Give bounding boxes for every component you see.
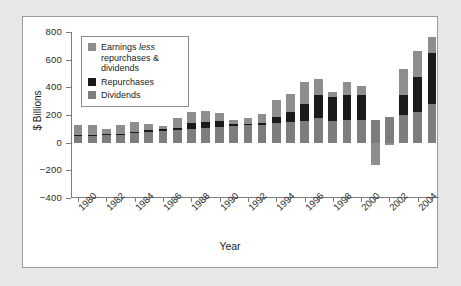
bar-segment [88,136,97,143]
bar-segment [343,82,352,95]
bar-segment [159,126,168,129]
plot-area: 8006004002000−200−400 $ Billions 1980198… [23,17,437,267]
bar-group [371,17,380,267]
bar-segment [159,129,168,131]
bar-segment [215,113,224,122]
bar-segment [102,129,111,134]
chart-legend: Earnings less repurchases & dividendsRep… [81,36,189,107]
bar-segment [258,125,267,143]
bar-group [428,17,437,267]
bar-segment [399,69,408,95]
bar-group [385,17,394,267]
bar-segment [314,118,323,142]
y-tick-mark [66,60,71,61]
bar-segment [314,95,323,119]
bar-group [343,17,352,267]
bar-segment [328,121,337,143]
bar-group [286,17,295,267]
legend-swatch-icon [88,78,96,86]
bar-group [314,17,323,267]
y-tick-mark [66,143,71,144]
bar-segment [116,135,125,143]
bar-segment [300,104,309,121]
bar-segment [399,95,408,115]
y-tick-mark [66,198,71,199]
bar-segment [413,51,422,77]
bar-segment [244,125,253,143]
bar-segment [102,135,111,143]
bar-segment [328,97,337,121]
bar-segment [399,115,408,142]
bar-segment [173,128,182,130]
bar-segment [258,123,267,125]
bar-segment [201,128,210,143]
bar-segment [74,136,83,143]
bar-group [201,17,210,267]
y-tick-mark [66,115,71,116]
bar-segment [144,132,153,143]
bar-segment [413,112,422,143]
bar-segment [258,114,267,124]
bar-segment [201,111,210,122]
bar-group [357,17,366,267]
y-tick-mark [66,87,71,88]
bar-segment [74,125,83,136]
bar-segment [187,129,196,143]
bar-segment [229,124,238,126]
bar-segment [215,121,224,127]
bar-segment [88,125,97,135]
bar-segment [428,104,437,143]
bar-segment [102,134,111,135]
bar-segment [428,37,437,52]
bar-group [413,17,422,267]
bar-segment [328,92,337,96]
bar-segment [314,79,323,95]
bar-group [399,17,408,267]
bar-segment [413,77,422,112]
legend-label: Repurchases [101,77,154,88]
bar-segment [144,130,153,131]
bar-segment [272,117,281,123]
bar-segment [371,143,380,166]
bar-segment [371,120,380,143]
bar-group [229,17,238,267]
legend-item-earnings-less: Earnings less repurchases & dividends [88,42,182,74]
legend-label: Dividends [101,90,141,101]
bar-segment [229,126,238,143]
bar-segment [130,133,139,142]
bar-segment [173,130,182,142]
legend-swatch-icon [88,91,96,99]
bar-segment [300,82,309,103]
bar-group [300,17,309,267]
bar-segment [428,53,437,104]
bar-segment [244,118,253,123]
bar-segment [343,95,352,121]
bar-segment [88,135,97,136]
bar-segment [286,94,295,113]
bar-segment [116,125,125,134]
bar-segment [286,122,295,143]
bar-segment [357,86,366,95]
bar-group [244,17,253,267]
bar-segment [385,117,394,142]
bar-segment [74,135,83,136]
legend-swatch-icon [88,43,96,51]
bar-group [215,17,224,267]
bar-group [328,17,337,267]
bar-group [272,17,281,267]
bar-group [258,17,267,267]
bar-segment [130,122,139,133]
y-tick-mark [66,32,71,33]
bar-segment [272,123,281,142]
bar-segment [272,100,281,117]
bar-segment [130,132,139,133]
bar-segment [173,118,182,128]
legend-item-repurchases: Repurchases [88,77,182,88]
legend-item-dividends: Dividends [88,90,182,101]
bar-segment [229,120,238,125]
bar-segment [357,95,366,120]
chart-figure: 8006004002000−200−400 $ Billions 1980198… [22,16,438,268]
bar-segment [300,121,309,143]
bar-segment [385,143,394,146]
bar-segment [187,123,196,129]
